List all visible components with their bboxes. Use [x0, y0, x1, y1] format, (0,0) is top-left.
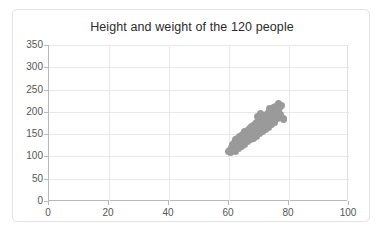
y-tick-label: 250	[11, 85, 43, 95]
gridline-vertical	[289, 45, 290, 201]
scatter-plot-area	[48, 45, 348, 201]
gridline-horizontal	[49, 45, 349, 46]
x-tick-mark	[288, 201, 289, 205]
x-tick-mark	[168, 201, 169, 205]
gridline-vertical	[229, 45, 230, 201]
x-tick-label: 40	[148, 208, 188, 218]
y-tick-label: 50	[11, 174, 43, 184]
gridline-horizontal	[49, 67, 349, 68]
x-tick-label: 100	[328, 208, 368, 218]
chart-title: Height and weight of the 120 people	[13, 20, 371, 34]
gridline-horizontal	[49, 90, 349, 91]
x-tick-label: 20	[88, 208, 128, 218]
y-tick-label: 350	[11, 40, 43, 50]
gridline-horizontal	[49, 179, 349, 180]
y-tick-mark	[44, 201, 48, 202]
x-tick-label: 60	[208, 208, 248, 218]
y-tick-label: 100	[11, 151, 43, 161]
plot-frame-right	[347, 45, 348, 201]
gridline-horizontal	[49, 156, 349, 157]
y-tick-label: 200	[11, 107, 43, 117]
x-tick-mark	[108, 201, 109, 205]
y-tick-label: 150	[11, 129, 43, 139]
gridline-horizontal	[49, 134, 349, 135]
x-tick-mark	[48, 201, 49, 205]
gridline-vertical	[109, 45, 110, 201]
y-tick-label: 0	[11, 196, 43, 206]
chart-card: Height and weight of the 120 people 0501…	[12, 9, 370, 222]
scatter-point	[263, 121, 270, 128]
gridline-horizontal	[49, 112, 349, 113]
scatter-point	[280, 116, 287, 123]
gridline-vertical	[169, 45, 170, 201]
y-tick-label: 300	[11, 62, 43, 72]
x-tick-label: 80	[268, 208, 308, 218]
x-tick-label: 0	[28, 208, 68, 218]
x-tick-mark	[348, 201, 349, 205]
scatter-point	[273, 105, 280, 112]
x-tick-mark	[228, 201, 229, 205]
